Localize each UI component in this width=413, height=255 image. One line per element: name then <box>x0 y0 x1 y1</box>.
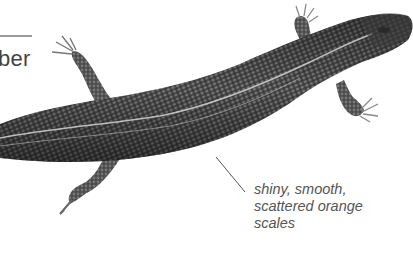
callout-label: shiny, smooth, scattered orange scales <box>254 181 363 232</box>
callout-line: shiny, smooth, <box>254 181 363 198</box>
callout-line: scattered orange <box>254 198 363 215</box>
callout-line: scales <box>254 215 363 232</box>
